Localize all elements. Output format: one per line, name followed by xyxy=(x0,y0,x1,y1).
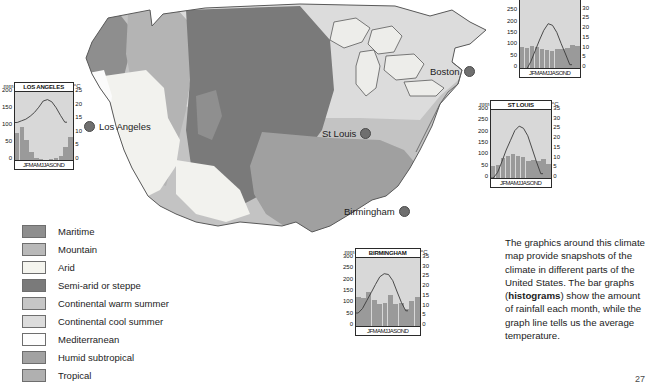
month-axis-labels: JFMAMJJASOND xyxy=(355,327,421,336)
chart-plot-area xyxy=(490,110,552,179)
city-label: St Louis xyxy=(322,128,356,139)
legend-swatch xyxy=(22,315,46,328)
city-marker-st-louis: St Louis xyxy=(322,128,371,139)
y-axis-ticks: 300250200150100500 xyxy=(478,108,490,176)
legend-row: Mountain xyxy=(22,240,169,258)
chart-title: BIRMINGHAM xyxy=(355,248,421,258)
caption-bold-term: histograms xyxy=(508,290,560,301)
chart-title: ST LOUIS xyxy=(490,100,552,110)
y2-axis-ticks: 35302520151050 xyxy=(552,108,560,176)
y-axis-ticks: 200150100500 xyxy=(2,90,14,158)
temperature-line xyxy=(356,274,408,313)
city-dot-icon xyxy=(84,121,95,132)
legend-label: Mediterranean xyxy=(58,334,119,345)
legend-label: Tropical xyxy=(58,370,91,381)
month-axis-labels: JFMAMJJASOND xyxy=(519,69,581,78)
legend-swatch xyxy=(22,333,46,346)
y2-axis-ticks: 2520151050 xyxy=(74,90,82,158)
temperature-line xyxy=(520,24,572,68)
temperature-line xyxy=(15,100,67,123)
chart-plot-area xyxy=(355,258,421,327)
city-marker-birmingham: Birmingham xyxy=(344,206,410,217)
legend-row: Tropical xyxy=(22,366,169,384)
page-number: 27 xyxy=(635,374,645,384)
legend-row: Mediterranean xyxy=(22,330,169,348)
legend-label: Humid subtropical xyxy=(58,352,134,363)
legend-swatch xyxy=(22,369,46,382)
climate-chart-los-angeles: mm200150100500LOS ANGELESJFMAMJJASOND°C2… xyxy=(2,82,82,170)
city-label: Birmingham xyxy=(344,206,395,217)
city-marker-los-angeles: Los Angeles xyxy=(84,121,151,132)
rainfall-bar xyxy=(546,164,551,179)
temperature-line xyxy=(491,126,543,178)
city-label: Boston xyxy=(430,66,460,77)
legend-row: Continental cool summer xyxy=(22,312,169,330)
chart-title: LOS ANGELES xyxy=(14,82,74,92)
legend-swatch xyxy=(22,351,46,364)
climate-legend: MaritimeMountainAridSemi-arid or steppeC… xyxy=(22,222,169,384)
city-dot-icon xyxy=(399,206,410,217)
y-axis-ticks: 300250200150100500 xyxy=(343,256,355,324)
legend-label: Continental cool summer xyxy=(58,316,163,327)
city-marker-boston: Boston xyxy=(430,66,475,77)
month-axis-labels: JFMAMJJASOND xyxy=(14,161,74,170)
rainfall-bar xyxy=(409,301,414,326)
rainfall-bar xyxy=(575,46,580,68)
rainfall-bar xyxy=(415,297,420,326)
climate-chart-birmingham: mm300250200150100500BIRMINGHAMJFMAMJJASO… xyxy=(343,248,429,336)
climate-chart-boston: mm300250200150100500BOSTONJFMAMJJASOND°C… xyxy=(507,0,589,78)
legend-swatch xyxy=(22,279,46,292)
y-axis-ticks: 300250200150100500 xyxy=(507,0,519,66)
climate-chart-st-louis: mm300250200150100500ST LOUISJFMAMJJASOND… xyxy=(478,100,560,188)
chart-plot-area xyxy=(519,0,581,69)
rainfall-bar xyxy=(68,137,72,160)
chart-plot-area xyxy=(14,92,74,161)
legend-swatch xyxy=(22,225,46,238)
caption-text: The graphics around this climate map pro… xyxy=(505,236,645,342)
y2-axis-ticks: 35302520151050 xyxy=(421,256,429,324)
y2-axis-ticks: 35302520151050 xyxy=(581,0,589,66)
city-dot-icon xyxy=(360,128,371,139)
legend-row: Maritime xyxy=(22,222,169,240)
legend-swatch xyxy=(22,297,46,310)
month-axis-labels: JFMAMJJASOND xyxy=(490,179,552,188)
city-label: Los Angeles xyxy=(99,121,151,132)
legend-swatch xyxy=(22,243,46,256)
legend-label: Arid xyxy=(58,262,75,273)
legend-row: Semi-arid or steppe xyxy=(22,276,169,294)
legend-row: Continental warm summer xyxy=(22,294,169,312)
legend-row: Arid xyxy=(22,258,169,276)
legend-label: Mountain xyxy=(58,244,97,255)
legend-row: Humid subtropical xyxy=(22,348,169,366)
legend-label: Semi-arid or steppe xyxy=(58,280,141,291)
legend-label: Maritime xyxy=(58,226,94,237)
legend-swatch xyxy=(22,261,46,274)
legend-label: Continental warm summer xyxy=(58,298,169,309)
city-dot-icon xyxy=(464,66,475,77)
